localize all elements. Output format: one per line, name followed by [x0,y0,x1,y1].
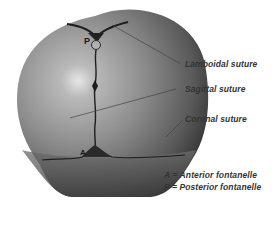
posterior-fontanelle [92,41,101,50]
legend-anterior: A = Anterior fontanelle [164,170,257,180]
anterior-marker: A [80,148,86,157]
posterior-marker: P [84,36,90,46]
lamboidal-suture-label: Lamboidal suture [185,59,257,69]
legend-posterior: P = Posterior fontanelle [164,182,261,192]
sagittal-suture-label: Sagittal suture [185,84,246,94]
coronal-suture-label: Coronal suture [185,114,247,124]
